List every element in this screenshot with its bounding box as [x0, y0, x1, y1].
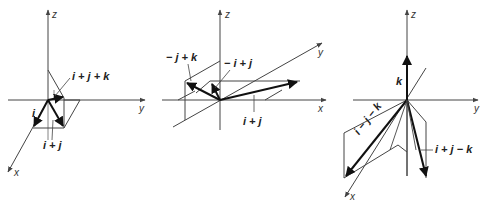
vector-i-plus-j [220, 82, 297, 100]
right-y-axis-label: y [474, 104, 479, 114]
figure-left [8, 10, 145, 172]
figure-right [344, 10, 478, 197]
right-label-i-plus-j-minus-k: i + j − k [435, 144, 472, 155]
middle-z-axis-label: z [225, 10, 230, 20]
left-x-axis-label: x [14, 168, 19, 178]
vector-i-plus-j [48, 100, 63, 126]
right-x-axis-label: x [350, 192, 355, 202]
figure-middle [162, 10, 326, 130]
middle-label-i-plus-j: i + j [243, 116, 262, 127]
middle-label-neg-j-plus-k: − j + k [166, 52, 197, 63]
middle-y-axis-label: y [318, 48, 323, 58]
left-label-i-plus-j: i + j [43, 140, 62, 151]
vector-diagrams [0, 0, 486, 204]
middle-x-axis-label: x [318, 104, 323, 114]
right-label-k: k [396, 76, 402, 87]
left-label-i: i [32, 108, 35, 119]
vector-i [34, 100, 48, 126]
right-z-axis-label: z [411, 10, 416, 20]
left-y-axis-label: y [139, 104, 144, 114]
middle-label-neg-i-plus-j: − i + j [224, 58, 252, 69]
left-z-axis-label: z [52, 10, 57, 20]
left-label-i-plus-j-plus-k: i + j + k [72, 71, 109, 82]
